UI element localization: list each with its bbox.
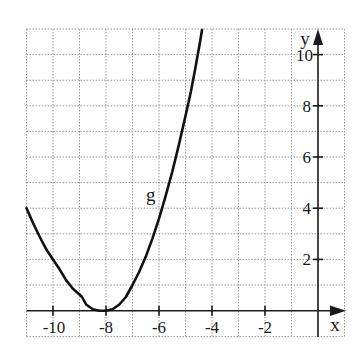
x-tick-label: -8 [99,318,113,337]
x-tick-label: -4 [205,318,220,337]
function-graph: -10 -8 -6 -4 -2 x 2 4 6 8 10 y g [0,0,364,348]
y-tick-label: 4 [303,199,312,218]
x-tick-label: -6 [152,318,166,337]
y-axis-arrow-icon [313,29,323,45]
curve-label-g: g [146,184,156,205]
x-tick-label: -2 [258,318,272,337]
y-tick-label: 6 [303,148,312,167]
x-axis: -10 -8 -6 -4 -2 x [27,306,347,338]
y-tick-label: 8 [303,97,312,116]
y-tick-label: 2 [303,250,312,269]
x-tick-label: -10 [43,318,66,337]
y-axis-label: y [300,28,310,49]
x-axis-label: x [330,314,340,335]
